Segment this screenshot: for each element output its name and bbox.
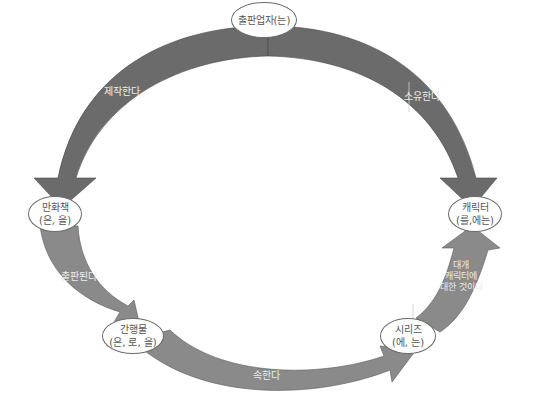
- node-publisher-label: 출판업자(는): [238, 14, 291, 27]
- node-character-label: 캐릭터: [462, 201, 489, 214]
- arrow-owns: [268, 26, 497, 208]
- node-periodical: 간행물 (은, 로, 을): [102, 318, 164, 354]
- edge-label-about: 대개 캐릭터에 대한 것이다: [440, 260, 483, 293]
- node-periodical-particles: (은, 로, 을): [109, 336, 157, 349]
- node-series: 시리즈 (에, 는): [380, 318, 436, 354]
- node-comic-particles: (은, 을): [39, 214, 71, 227]
- edge-label-about-line2: 캐릭터에: [440, 271, 483, 282]
- edge-label-belongs: 속한다: [253, 370, 280, 382]
- node-publisher: 출판업자(는): [231, 2, 297, 38]
- node-comic: 만화책 (은, 을): [28, 196, 82, 232]
- edge-label-publishes: 출판된다: [61, 271, 97, 283]
- arrow-produces: [34, 26, 268, 208]
- node-character-particles: (를,에는): [456, 214, 494, 227]
- node-series-label: 시리즈: [395, 323, 422, 336]
- edge-label-owns: 소유한다: [404, 91, 440, 103]
- edge-label-about-line3: 대한 것이다: [440, 282, 483, 293]
- node-periodical-label: 간행물: [120, 323, 147, 336]
- node-series-particles: (에, 는): [392, 336, 424, 349]
- node-comic-label: 만화책: [42, 201, 69, 214]
- edge-label-about-line1: 대개: [440, 260, 483, 271]
- edge-label-produces: 제작한다: [104, 86, 140, 98]
- node-character: 캐릭터 (를,에는): [448, 196, 502, 232]
